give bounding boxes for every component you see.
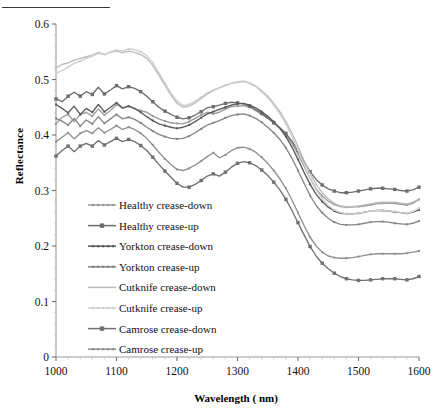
x-axis-title: Wavelength ( nm)	[0, 392, 436, 404]
y-tick-label: 0.4	[35, 129, 50, 141]
chart-series-group	[54, 48, 420, 282]
legend-label: Yorkton crease-up	[119, 261, 200, 273]
legend-item: Yorkton crease-down	[88, 240, 213, 252]
x-tick-label: 1300	[226, 365, 249, 377]
legend-label: Cutknife crease-up	[119, 302, 203, 314]
legend-item: Healthy crease-down	[88, 199, 213, 211]
chart-series	[54, 137, 420, 282]
x-tick-label: 1000	[45, 365, 68, 377]
top-rule-divider	[2, 7, 110, 8]
legend-item: Cutknife crease-down	[88, 281, 216, 293]
chart-series	[55, 125, 420, 260]
legend-label: Yorkton crease-down	[119, 240, 213, 252]
x-tick-label: 1600	[408, 365, 431, 377]
legend-item: Camrose crease-down	[88, 323, 217, 335]
legend-item: Healthy crease-up	[88, 220, 199, 232]
x-tick-label: 1200	[166, 365, 189, 377]
y-axis-title: Reflectance	[13, 111, 25, 201]
legend-label: Cutknife crease-down	[119, 281, 216, 293]
y-tick-label: 0	[43, 351, 49, 363]
legend-item: Cutknife crease-up	[88, 302, 203, 314]
y-tick-label: 0.5	[35, 74, 50, 86]
chart-legend: Healthy crease-downHealthy crease-upYork…	[88, 199, 217, 355]
chart-axes: 00.10.20.30.40.50.6100011001200130014001…	[35, 18, 431, 377]
y-tick-label: 0.2	[35, 240, 50, 252]
y-tick-label: 0.6	[35, 18, 50, 30]
figure-container: Reflectance 00.10.20.30.40.50.6100011001…	[0, 0, 436, 415]
chart-series	[54, 84, 420, 195]
y-tick-label: 0.3	[35, 185, 50, 197]
x-tick-label: 1100	[105, 365, 128, 377]
y-tick-label: 0.1	[35, 296, 50, 308]
legend-label: Healthy crease-up	[119, 220, 199, 232]
legend-label: Camrose crease-up	[119, 343, 203, 355]
x-axis-title-text: Wavelength ( nm)	[158, 392, 278, 404]
legend-item: Camrose crease-up	[88, 343, 203, 355]
legend-label: Healthy crease-down	[119, 199, 213, 211]
x-tick-label: 1400	[287, 365, 310, 377]
x-tick-label: 1500	[347, 365, 370, 377]
legend-label: Camrose crease-down	[119, 323, 217, 335]
line-chart-plot: 00.10.20.30.40.50.6100011001200130014001…	[0, 0, 436, 390]
legend-item: Yorkton crease-up	[88, 261, 200, 273]
